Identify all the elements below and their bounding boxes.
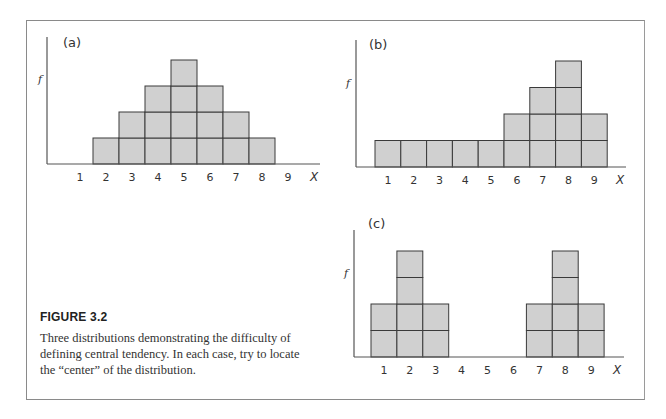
y-axis-label: f — [343, 267, 350, 280]
x-tick-label: 2 — [406, 364, 413, 377]
x-tick-label: 8 — [562, 364, 569, 377]
bar-block — [578, 331, 604, 358]
x-tick-label: 6 — [510, 364, 517, 377]
bar-block — [397, 278, 423, 305]
bar-block — [578, 304, 604, 331]
bar-block — [552, 331, 578, 358]
bar-block — [552, 304, 578, 331]
x-axis-label: X — [612, 363, 622, 377]
panel-label: (c) — [368, 216, 385, 231]
bar-block — [423, 304, 449, 331]
x-tick-label: 4 — [458, 364, 465, 377]
bar-block — [552, 251, 578, 278]
bar-block — [371, 304, 397, 331]
x-tick-label: 3 — [432, 364, 439, 377]
bar-block — [423, 331, 449, 358]
figure-title: FIGURE 3.2 — [40, 310, 300, 324]
bar-block — [397, 331, 423, 358]
bar-block — [526, 304, 552, 331]
x-tick-label: 7 — [536, 364, 543, 377]
figure-caption-text: Three distributions demonstrating the di… — [40, 330, 300, 378]
bar-block — [552, 278, 578, 305]
bar-block — [371, 331, 397, 358]
x-tick-label: 9 — [588, 364, 595, 377]
x-tick-label: 1 — [380, 364, 387, 377]
bar-block — [397, 251, 423, 278]
x-tick-label: 5 — [484, 364, 491, 377]
bar-block — [397, 304, 423, 331]
bar-block — [526, 331, 552, 358]
figure-caption: FIGURE 3.2 Three distributions demonstra… — [40, 310, 300, 378]
